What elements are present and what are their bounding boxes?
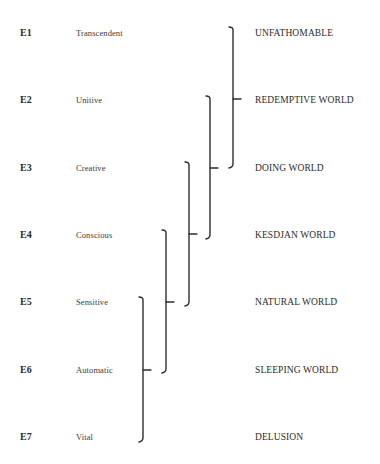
bracket-e3-e5 — [185, 162, 197, 306]
bracket-e5-e7 — [139, 297, 151, 442]
bracket-e4-e6 — [162, 230, 174, 373]
bracket-e1-e3 — [229, 27, 241, 168]
bracket-diagram — [0, 0, 380, 464]
bracket-e2-e4 — [206, 96, 218, 239]
